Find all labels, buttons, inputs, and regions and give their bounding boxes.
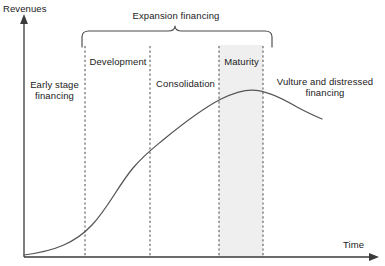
expansion-financing-brace [82, 26, 272, 47]
label-early-stage-financing: Early stage financing [24, 79, 85, 101]
x-axis [24, 253, 379, 261]
revenue-curve [24, 90, 322, 255]
label-development: Development [86, 56, 150, 67]
label-expansion-financing: Expansion financing [102, 10, 250, 21]
label-maturity: Maturity [219, 56, 264, 67]
label-vulture-and-distressed-financing: Vulture and distressed financing [270, 76, 380, 98]
maturity-shaded-band [219, 45, 263, 257]
label-consolidation: Consolidation [151, 78, 220, 89]
diagram-graphics [0, 0, 385, 266]
y-axis-label: Revenues [3, 3, 47, 14]
y-axis [20, 14, 28, 257]
diagram-canvas: Revenues Time Expansion financing Early … [0, 0, 385, 266]
x-axis-label: Time [343, 239, 364, 250]
